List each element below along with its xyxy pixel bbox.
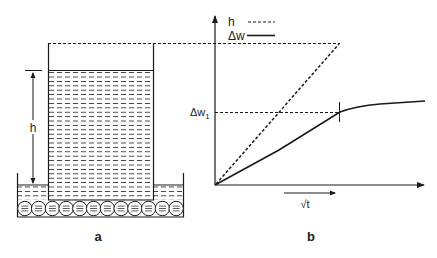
panel-a-label: a <box>94 229 102 244</box>
panel-a: h a <box>17 43 340 244</box>
tray-water-left <box>18 185 48 200</box>
panel-b-label: b <box>307 229 315 244</box>
dw-curve-solid <box>215 101 425 185</box>
tray-water-right <box>153 185 183 200</box>
porous-bed <box>18 201 184 215</box>
h-dimension-label: h <box>30 121 37 135</box>
dw1-label: Δw1 <box>190 106 210 121</box>
x-axis-label: √t <box>300 198 309 210</box>
legend: h Δw <box>228 15 275 43</box>
h-curve-dashed <box>216 44 339 184</box>
legend-h-label: h <box>228 15 235 29</box>
column-water <box>49 71 153 200</box>
diagram-canvas: h a h Δw Δw1 √t b <box>0 0 437 258</box>
legend-dw-label: Δw <box>228 29 245 43</box>
panel-b: h Δw Δw1 √t b <box>190 15 425 244</box>
